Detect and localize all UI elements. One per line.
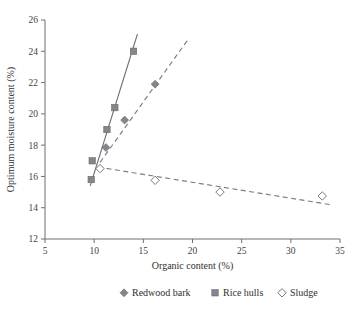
data-point-sludge[interactable] — [96, 164, 104, 172]
data-point-sludge[interactable] — [318, 192, 326, 200]
data-point-rice-hulls[interactable] — [104, 126, 110, 132]
series-redwood-bark — [100, 39, 189, 163]
data-point-redwood-bark[interactable] — [121, 116, 129, 124]
axis-titles: Organic content (%)Optimum moisture cont… — [5, 67, 233, 272]
y-tick-label: 16 — [29, 172, 39, 182]
legend-label-sludge[interactable]: Sludge — [290, 287, 318, 298]
data-point-rice-hulls[interactable] — [89, 158, 95, 164]
y-tick-label: 18 — [29, 141, 39, 151]
legend-marker-rice-hulls — [212, 290, 218, 296]
scatter-chart-figure: 12141618202224265101520253035Organic con… — [0, 0, 357, 318]
axis-group: 12141618202224265101520253035 — [29, 15, 346, 256]
data-point-sludge[interactable] — [151, 176, 159, 184]
series-rice-hulls — [88, 34, 137, 186]
data-point-rice-hulls[interactable] — [88, 176, 94, 182]
data-point-rice-hulls[interactable] — [112, 104, 118, 110]
legend-marker-redwood-bark — [120, 289, 128, 297]
trendline-sludge — [98, 167, 330, 205]
y-axis-title: Optimum moisture content (%) — [5, 67, 17, 192]
x-axis-title: Organic content (%) — [152, 260, 233, 272]
legend-marker-sludge — [278, 289, 286, 297]
chart-canvas: 12141618202224265101520253035Organic con… — [0, 0, 357, 318]
y-tick-label: 12 — [29, 234, 39, 244]
x-tick-label: 5 — [43, 246, 48, 256]
y-tick-label: 24 — [29, 47, 39, 57]
x-tick-label: 25 — [237, 246, 247, 256]
x-tick-label: 20 — [188, 246, 198, 256]
y-tick-label: 26 — [29, 15, 39, 25]
x-tick-label: 35 — [335, 246, 345, 256]
chart-legend: Redwood barkRice hullsSludge — [120, 287, 318, 298]
x-tick-label: 15 — [139, 246, 149, 256]
legend-label-rice-hulls[interactable]: Rice hulls — [223, 287, 263, 298]
legend-label-redwood-bark[interactable]: Redwood bark — [132, 287, 191, 298]
data-point-rice-hulls[interactable] — [130, 48, 136, 54]
data-point-redwood-bark[interactable] — [151, 80, 159, 88]
x-tick-label: 10 — [89, 246, 99, 256]
data-point-sludge[interactable] — [216, 188, 224, 196]
x-tick-label: 30 — [286, 246, 296, 256]
y-tick-label: 14 — [29, 203, 39, 213]
y-tick-label: 22 — [29, 78, 39, 88]
trendline-redwood-bark — [100, 39, 189, 163]
series-sludge — [96, 164, 330, 204]
y-tick-label: 20 — [29, 109, 39, 119]
